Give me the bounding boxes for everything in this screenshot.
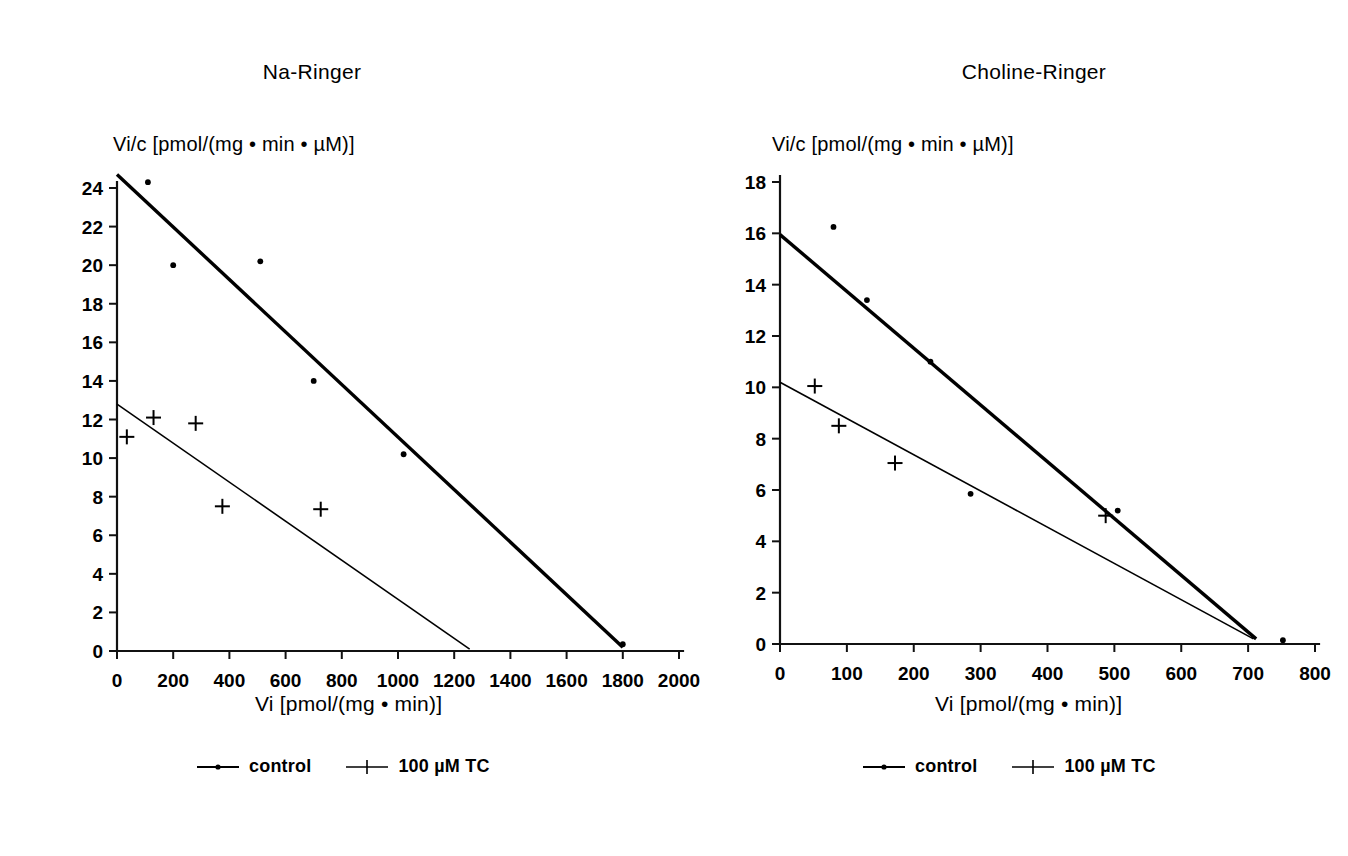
data-point-control — [1115, 508, 1121, 514]
data-point-control — [620, 641, 626, 647]
x-axis-tick-label: 700 — [1232, 663, 1264, 684]
data-point-tc — [215, 499, 230, 514]
y-axis-tick-label: 24 — [82, 178, 104, 199]
regression-line-control — [780, 235, 1256, 639]
y-axis-tick-label: 4 — [92, 564, 103, 585]
y-axis-tick-label: 20 — [82, 255, 103, 276]
x-axis-tick-label: 1800 — [602, 670, 644, 691]
y-axis-tick-label: 16 — [745, 223, 766, 244]
y-axis-tick-label: 16 — [82, 332, 103, 353]
data-point-control — [401, 451, 407, 457]
x-axis-tick-label: 1000 — [377, 670, 419, 691]
plot-area-na-ringer: 0246810121416182022240200400600800100012… — [0, 0, 700, 700]
legend-na-ringer: control 100 µM TC — [196, 756, 490, 777]
y-axis-tick-label: 10 — [745, 377, 766, 398]
data-point-control — [1280, 637, 1286, 643]
figure-root: Na-Ringer Vi/c [pmol/(mg • min • µM)] Vi… — [0, 0, 1348, 856]
panel-choline-ringer: Choline-Ringer Vi/c [pmol/(mg • min • µM… — [660, 0, 1348, 856]
legend-choline-ringer: control 100 µM TC — [862, 756, 1156, 777]
y-axis-tick-label: 14 — [745, 275, 767, 296]
regression-line-tc — [780, 382, 1253, 639]
data-point-control — [864, 297, 870, 303]
data-point-control — [145, 179, 151, 185]
legend-label-tc: 100 µM TC — [1064, 756, 1155, 777]
y-axis-tick-label: 4 — [755, 531, 766, 552]
y-axis-tick-label: 8 — [755, 429, 766, 450]
y-axis-tick-label: 0 — [755, 634, 766, 655]
plot-area-choline-ringer: 0246810121416180100200300400500600700800 — [660, 0, 1348, 700]
legend-marker-dot-icon — [196, 760, 240, 774]
data-point-tc — [146, 410, 161, 425]
x-axis-tick-label: 1600 — [545, 670, 587, 691]
legend-entry-tc: 100 µM TC — [1011, 756, 1155, 777]
y-axis-tick-label: 6 — [755, 480, 766, 501]
data-point-tc — [313, 502, 328, 517]
data-point-control — [311, 378, 317, 384]
y-axis-tick-label: 10 — [82, 448, 103, 469]
x-axis-tick-label: 800 — [326, 670, 358, 691]
y-axis-tick-label: 18 — [82, 294, 103, 315]
data-point-tc — [831, 418, 846, 433]
y-axis-tick-label: 22 — [82, 217, 103, 238]
data-point-tc — [119, 429, 134, 444]
y-axis-tick-label: 18 — [745, 172, 766, 193]
data-point-control — [968, 491, 974, 497]
x-axis-tick-label: 800 — [1299, 663, 1331, 684]
x-axis-tick-label: 1200 — [433, 670, 475, 691]
legend-marker-plus-icon — [1011, 759, 1055, 775]
y-axis-tick-label: 0 — [92, 641, 103, 662]
x-axis-tick-label: 0 — [112, 670, 123, 691]
legend-marker-plus-icon — [345, 759, 389, 775]
x-axis-tick-label: 100 — [831, 663, 863, 684]
data-point-tc — [807, 379, 822, 394]
legend-entry-control: control — [196, 756, 311, 777]
y-axis-tick-label: 14 — [82, 371, 104, 392]
legend-label-control: control — [249, 756, 311, 777]
x-axis-tick-label: 400 — [214, 670, 246, 691]
x-axis-tick-label: 200 — [157, 670, 189, 691]
data-point-tc — [1098, 508, 1113, 523]
data-point-tc — [188, 416, 203, 431]
legend-label-control: control — [915, 756, 977, 777]
regression-line-control — [117, 174, 623, 647]
legend-entry-tc: 100 µM TC — [345, 756, 489, 777]
x-axis-tick-label: 300 — [965, 663, 997, 684]
x-axis-tick-label: 200 — [898, 663, 930, 684]
legend-marker-dot-icon — [862, 760, 906, 774]
x-axis-tick-label: 0 — [775, 663, 786, 684]
x-axis-tick-label: 400 — [1032, 663, 1064, 684]
x-axis-tick-label: 1400 — [489, 670, 531, 691]
x-axis-tick-label: 600 — [270, 670, 302, 691]
x-axis-tick-label: 600 — [1165, 663, 1197, 684]
y-axis-tick-label: 2 — [92, 602, 103, 623]
panel-na-ringer: Na-Ringer Vi/c [pmol/(mg • min • µM)] Vi… — [0, 0, 700, 856]
y-axis-tick-label: 6 — [92, 525, 103, 546]
legend-label-tc: 100 µM TC — [398, 756, 489, 777]
y-axis-tick-label: 2 — [755, 583, 766, 604]
y-axis-tick-label: 12 — [745, 326, 766, 347]
data-point-control — [831, 224, 837, 230]
regression-line-tc — [117, 404, 470, 649]
y-axis-tick-label: 8 — [92, 487, 103, 508]
y-axis-tick-label: 12 — [82, 410, 103, 431]
data-point-control — [170, 262, 176, 268]
data-point-tc — [888, 456, 903, 471]
data-point-control — [257, 258, 263, 264]
data-point-control — [928, 359, 934, 365]
x-axis-tick-label: 500 — [1099, 663, 1131, 684]
legend-entry-control: control — [862, 756, 977, 777]
